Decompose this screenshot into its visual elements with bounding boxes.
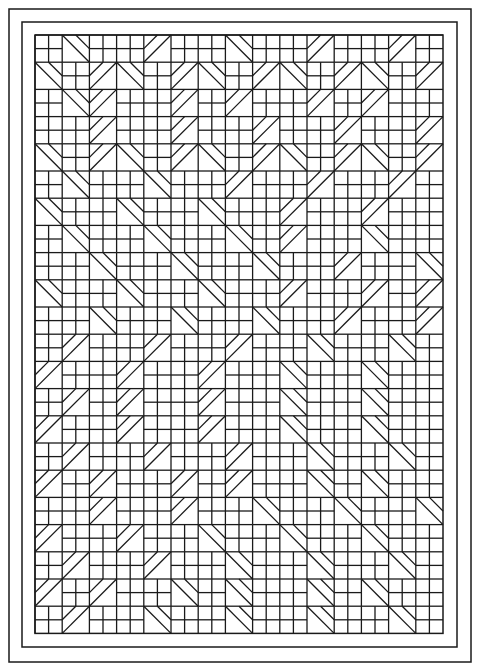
quilt-grid <box>35 35 443 633</box>
quilt-pattern <box>0 0 480 672</box>
